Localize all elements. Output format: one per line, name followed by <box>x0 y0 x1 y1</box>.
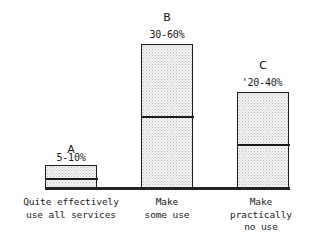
bar-c <box>237 92 289 189</box>
value-label-a: 5-10% <box>37 152 105 164</box>
bar-a <box>45 165 97 189</box>
bar-chart: A 5-10% Quite effectively use all servic… <box>0 0 316 246</box>
series-letter-c: C <box>237 60 289 72</box>
bar-b-divider <box>141 116 194 118</box>
category-label-b: Make some use <box>117 196 217 221</box>
value-label-b: 30-60% <box>131 29 203 41</box>
series-letter-b: B <box>141 12 193 24</box>
bar-a-divider <box>45 178 98 180</box>
category-label-c: Make practically no use <box>208 196 314 234</box>
bar-c-divider <box>237 144 290 146</box>
x-axis-baseline <box>45 187 290 190</box>
bar-b <box>141 44 193 189</box>
value-label-c: '20-40% <box>222 77 302 89</box>
plot-area: A 5-10% Quite effectively use all servic… <box>0 0 316 246</box>
category-label-a: Quite effectively use all services <box>8 196 134 221</box>
